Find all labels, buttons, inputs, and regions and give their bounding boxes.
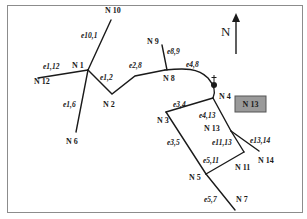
node-label-n3: N 3: [157, 116, 169, 125]
edge-label-e5-11: e5,11: [203, 156, 219, 165]
edge-label-e3-5: e3,5: [167, 138, 180, 147]
highlight-box-label: N 13: [243, 100, 259, 109]
node-label-n4: N 4: [219, 92, 231, 101]
edge-label-e10-1: e10,1: [81, 31, 97, 40]
node-label-n10: N 10: [105, 6, 121, 15]
network-diagram: N N 13 N 10 N 1 N 12 N 2 N 6 N 9 N 8 N 4…: [0, 0, 307, 219]
edge-label-e13-14: e13,14: [250, 136, 270, 145]
edge-label-e4-13: e4,13: [199, 111, 216, 120]
node-label-n6: N 6: [66, 137, 78, 146]
edge-label-e2-8: e2,8: [129, 61, 142, 70]
node-label-n8: N 8: [163, 74, 175, 83]
node-label-n12: N 12: [34, 77, 50, 86]
node-label-n7: N 7: [236, 195, 248, 204]
node-label-n1: N 1: [72, 61, 84, 70]
edge-label-e1-2: e1,2: [100, 73, 113, 82]
highlight-box-n13: N 13: [235, 96, 266, 112]
north-label: N: [221, 24, 231, 39]
edge-label-e5-7: e5,7: [204, 195, 217, 204]
node-label-n13: N 13: [204, 124, 220, 133]
edge-label-e4-8: e4,8: [186, 60, 199, 69]
edge-label-e3-4: e3,4: [173, 100, 186, 109]
edge-label-e1-6: e1,6: [63, 100, 76, 109]
node-label-n11: N 11: [235, 163, 250, 172]
edge-label-e1-12: e1,12: [43, 62, 60, 71]
node-label-n5: N 5: [189, 173, 201, 182]
edge-label-e11-13: e11,13: [212, 138, 232, 147]
node-label-n14: N 14: [258, 156, 274, 165]
node-label-n2: N 2: [103, 100, 115, 109]
edge-label-e8-9: e8,9: [167, 47, 180, 56]
node-label-n9: N 9: [147, 37, 159, 46]
